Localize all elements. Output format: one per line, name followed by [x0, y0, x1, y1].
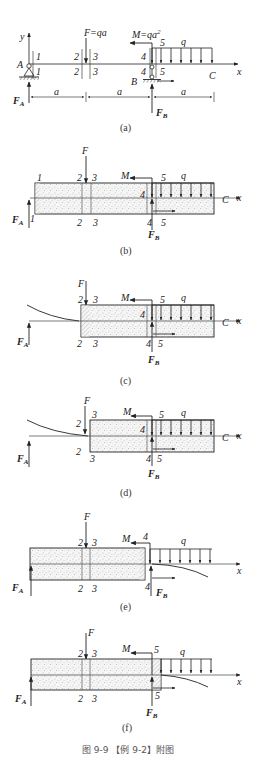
x-axis-label: x	[236, 315, 242, 326]
section-2-label-bottom: 2	[76, 446, 81, 457]
reaction-fb-label: FB	[155, 107, 168, 120]
dimension-a-1: a	[54, 86, 59, 97]
distributed-load-q	[152, 48, 212, 63]
section-2-label-bottom: 2	[74, 66, 79, 77]
load-q-label: q	[181, 170, 186, 181]
distributed-load-q	[150, 549, 212, 563]
distributed-load-q	[161, 659, 212, 673]
x-axis-label: x	[236, 430, 242, 441]
reaction-fb-label: FB	[147, 354, 160, 367]
moment-m-label: M	[120, 170, 130, 181]
section-2-label-bottom: 2	[77, 338, 82, 349]
y-axis-label: y	[19, 31, 25, 42]
section-4-label-top: 4	[141, 51, 146, 62]
reaction-fa-label: FA	[12, 95, 25, 108]
reaction-fb-label: FB	[155, 587, 168, 600]
force-f-label: F	[83, 511, 91, 522]
section-4-label-top: 4	[140, 424, 145, 435]
load-q-label: q	[180, 646, 185, 657]
section-2-label-top: 2	[76, 418, 81, 429]
deflection-curve	[27, 305, 79, 321]
section-5-label-top: 5	[154, 644, 159, 655]
section-4-label-top: 4	[143, 531, 148, 542]
reaction-fb-label: FB	[147, 468, 160, 481]
moment-m-label: M	[122, 406, 132, 417]
section-1-label-top: 1	[36, 51, 41, 62]
point-c-label: C	[222, 194, 229, 205]
moment-m-label: M	[121, 643, 131, 654]
deflection-curve	[152, 564, 208, 577]
section-3-label-bottom: 3	[92, 66, 98, 77]
section-5-label-bottom: 5	[160, 66, 165, 77]
section-2-label-top: 2	[78, 294, 83, 305]
point-c-label: C	[222, 317, 229, 328]
section-3-label-bottom: 3	[91, 583, 97, 594]
panel-e-label: (e)	[120, 601, 131, 613]
x-axis-label: x	[236, 676, 242, 687]
dimension-a-2: a	[117, 86, 122, 97]
section-5-label-bottom: 5	[157, 453, 162, 464]
panel-f-label: (f)	[122, 722, 132, 734]
section-4-label-bottom: 4	[146, 453, 151, 464]
section-5-label-bottom: 5	[155, 690, 160, 701]
figure-caption: 图 9-9 【例 9-2】附图	[82, 744, 174, 755]
section-1-label-bottom: 1	[30, 213, 35, 224]
section-3-label-top: 3	[91, 537, 97, 548]
x-axis-label: x	[236, 192, 242, 203]
reaction-fa-label: FA	[14, 693, 27, 706]
section-4-label-bottom: 4	[141, 66, 146, 77]
deflection-curve	[161, 675, 208, 687]
point-b-label: B	[131, 76, 137, 87]
panel-f: x F 2 3 2 3 M 5 5 q FB FA (f)	[14, 627, 242, 734]
load-q-label: q	[181, 36, 186, 47]
section-3-label-bottom: 3	[89, 453, 95, 464]
x-axis-label: x	[236, 565, 242, 576]
moment-m-label: M	[121, 533, 131, 544]
reaction-fb-label: FB	[147, 229, 160, 242]
section-4-label-bottom: 4	[146, 338, 151, 349]
section-4-label-bottom: 4	[147, 217, 152, 228]
section-5-label-bottom: 5	[158, 338, 163, 349]
panel-d: x C F 2 3 2 3 M 4 4 5 5 q FB FA (d)	[16, 395, 242, 499]
section-3-label-top: 3	[92, 51, 98, 62]
section-4-label-bottom: 4	[145, 581, 150, 592]
force-f-label: F	[77, 278, 85, 289]
force-f-label: F	[83, 395, 91, 406]
section-3-label-top: 3	[91, 172, 97, 183]
point-a-label: A	[16, 59, 24, 70]
beam-diagram-figure: x y A 1 1 FA 2 2 3 3 F=qa M=qa2 4 4	[0, 0, 257, 777]
section-3-label-bottom: 3	[92, 338, 98, 349]
section-2-label-bottom: 2	[78, 693, 83, 704]
section-5-label-top: 5	[160, 37, 165, 48]
section-5-label-top: 5	[159, 409, 164, 420]
section-3-label-top: 3	[91, 409, 97, 420]
load-q-label: q	[181, 407, 186, 418]
panel-c-label: (c)	[120, 375, 131, 387]
section-2-label-bottom: 2	[78, 583, 83, 594]
section-1-label-bottom: 1	[36, 66, 41, 77]
reaction-fa-label: FA	[16, 453, 29, 466]
panel-e: x F 2 3 2 3 M 4 4 q FB FA (e)	[11, 511, 242, 613]
force-f-label: F	[87, 627, 95, 638]
free-body-box	[31, 659, 161, 690]
section-3-label-top: 3	[92, 294, 98, 305]
panel-c: x C F 2 3 2 3 M 4 4 5 5 q FB FA (c)	[16, 278, 242, 387]
moment-m-label: M=qa2	[131, 28, 161, 40]
moment-m-label: M	[120, 292, 130, 303]
load-q-label: q	[181, 292, 186, 303]
panel-d-label: (d)	[120, 487, 132, 499]
section-5-label-top: 5	[160, 294, 165, 305]
section-3-label-bottom: 3	[92, 217, 98, 228]
panel-a: x y A 1 1 FA 2 2 3 3 F=qa M=qa2 4 4	[12, 27, 242, 134]
section-3-label-bottom: 3	[91, 693, 97, 704]
reaction-fa-label: FA	[16, 336, 29, 349]
section-1-label-top: 1	[37, 172, 42, 183]
dimension-a-3: a	[181, 86, 186, 97]
section-2-label-top: 2	[77, 172, 82, 183]
section-3-label-top: 3	[91, 648, 97, 659]
reaction-fb-label: FB	[145, 707, 158, 720]
section-2-label-top: 2	[74, 51, 79, 62]
point-c-label: C	[222, 432, 229, 443]
reaction-fa-label: FA	[11, 214, 24, 227]
section-4-label-top: 4	[140, 309, 145, 320]
